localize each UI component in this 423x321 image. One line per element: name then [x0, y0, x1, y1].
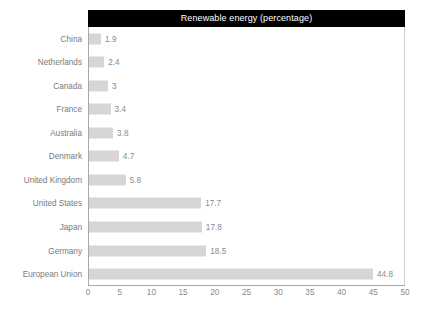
bar-value-label: 44.8 [377, 270, 393, 279]
category-label: Canada [53, 81, 82, 90]
bar-container: 1.9 [89, 33, 423, 44]
bar-value-label: 17.7 [205, 199, 221, 208]
bar-row: United States17.7 [0, 192, 423, 216]
bar [89, 269, 373, 280]
x-axis-tick-label: 15 [179, 288, 188, 297]
bar-row: Japan17.8 [0, 215, 423, 239]
category-label: Germany [48, 246, 82, 255]
bar-value-label: 3.4 [115, 105, 126, 114]
x-axis-tick-label: 10 [147, 288, 156, 297]
bar [89, 174, 126, 185]
bar-row: Germany18.5 [0, 239, 423, 263]
category-label: United Kingdom [24, 175, 82, 184]
bar-value-label: 17.8 [206, 223, 222, 232]
bar [89, 57, 104, 68]
x-axis: 05101520253035404550 [88, 288, 405, 302]
bar-row: United Kingdom5.8 [0, 168, 423, 192]
bar [89, 151, 119, 162]
x-axis-tick-label: 25 [242, 288, 251, 297]
category-label: Australia [50, 128, 82, 137]
bar-row: European Union44.8 [0, 262, 423, 286]
bar-row: France3.4 [0, 98, 423, 122]
bar [89, 80, 108, 91]
bar-container: 44.8 [89, 269, 423, 280]
category-label: United States [33, 199, 82, 208]
x-axis-tick-label: 20 [210, 288, 219, 297]
bar-container: 5.8 [89, 174, 423, 185]
bar-value-label: 18.5 [210, 246, 226, 255]
bar [89, 222, 202, 233]
bar-row: China1.9 [0, 27, 423, 51]
bar [89, 198, 201, 209]
x-axis-tick-label: 40 [337, 288, 346, 297]
bar-value-label: 3.8 [117, 128, 128, 137]
bar-row: Netherlands2.4 [0, 51, 423, 75]
bar-container: 4.7 [89, 151, 423, 162]
x-axis-tick-label: 50 [400, 288, 409, 297]
bar-row: Denmark4.7 [0, 145, 423, 169]
bar [89, 127, 113, 138]
category-label: Netherlands [38, 58, 82, 67]
x-axis-tick-label: 5 [117, 288, 122, 297]
category-label: European Union [23, 270, 82, 279]
bar [89, 104, 111, 115]
bar-container: 3.8 [89, 127, 423, 138]
bar-value-label: 1.9 [105, 34, 116, 43]
bar-container: 3.4 [89, 104, 423, 115]
bar [89, 33, 101, 44]
bar-row: Australia3.8 [0, 121, 423, 145]
chart-title: Renewable energy (percentage) [88, 10, 405, 27]
bar-container: 18.5 [89, 245, 423, 256]
bar-value-label: 2.4 [108, 58, 119, 67]
bar-container: 2.4 [89, 57, 423, 68]
bar-rows: China1.9Netherlands2.4Canada3France3.4Au… [0, 27, 423, 286]
category-label: France [57, 105, 82, 114]
bar-container: 17.7 [89, 198, 423, 209]
bar-value-label: 4.7 [123, 152, 134, 161]
bar-value-label: 5.8 [130, 175, 141, 184]
bar-container: 3 [89, 80, 423, 91]
bar [89, 245, 206, 256]
x-axis-tick-label: 35 [305, 288, 314, 297]
bar-container: 17.8 [89, 222, 423, 233]
category-label: China [61, 34, 82, 43]
x-axis-tick-label: 45 [369, 288, 378, 297]
x-axis-tick-label: 30 [274, 288, 283, 297]
category-label: Japan [60, 223, 82, 232]
bar-row: Canada3 [0, 74, 423, 98]
bar-chart: Renewable energy (percentage) China1.9Ne… [0, 0, 423, 321]
category-label: Denmark [49, 152, 82, 161]
x-axis-tick-label: 0 [86, 288, 91, 297]
bar-value-label: 3 [112, 81, 117, 90]
